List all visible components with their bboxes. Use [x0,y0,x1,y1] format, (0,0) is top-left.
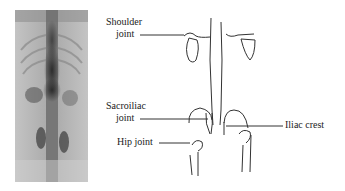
right-femur [242,135,251,172]
right-femoral-head [239,130,251,143]
shoulder-label-line2: joint [116,29,134,39]
right-clavicle [226,34,254,36]
right-scapula [241,39,255,60]
left-femur [190,152,198,176]
left-femoral-head [192,141,203,151]
shoulder-label-line1: Shoulder [106,17,142,27]
left-clavicle [184,33,210,37]
iliac-crest-label: Iliac crest [285,120,324,130]
hip-joint-label: Hip joint [117,137,153,147]
sacroiliac-label-line1: Sacroiliac [106,101,146,111]
spine-left-edge [210,18,213,125]
right-ilium [224,110,248,128]
skeleton-line-diagram [0,0,345,191]
left-scapula [187,38,199,62]
spine-right-edge [220,22,222,125]
left-ilium [189,108,212,123]
sacroiliac-label-line2: joint [116,113,134,123]
